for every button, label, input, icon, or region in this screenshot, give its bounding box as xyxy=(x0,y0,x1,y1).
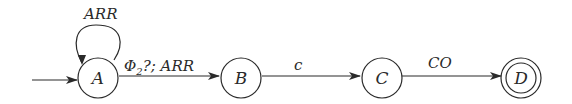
edge-B-C-label: c xyxy=(294,56,303,74)
state-C: C xyxy=(362,58,402,98)
state-B-label: B xyxy=(234,68,248,88)
state-A: A xyxy=(78,58,118,98)
state-D-label: D xyxy=(513,68,528,88)
state-A-label: A xyxy=(90,68,104,88)
edge-C-D-label: CO xyxy=(428,54,452,72)
self-loop-A-label: ARR xyxy=(82,5,117,23)
state-C-label: C xyxy=(375,68,388,88)
state-B: B xyxy=(221,58,261,98)
automaton-diagram: ARR Φ2?; ARR c CO A B C D xyxy=(0,0,572,104)
state-D-accepting: D xyxy=(501,58,541,98)
edge-A-B-label: Φ2?; ARR xyxy=(124,57,194,77)
